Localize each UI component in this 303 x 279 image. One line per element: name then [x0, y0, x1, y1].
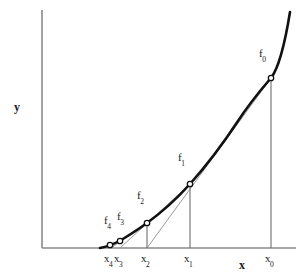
- tick-label-x0: x0: [265, 253, 274, 267]
- point-marker-f2: [144, 220, 149, 225]
- tick-label-x1-sub: 1: [189, 260, 193, 269]
- y-axis-label: y: [14, 101, 20, 113]
- tick-label-x3: x3: [114, 253, 123, 267]
- tick-label-x4-sub: 4: [109, 260, 113, 269]
- tick-label-x2: x2: [141, 253, 150, 267]
- point-label-f0: f0: [259, 48, 266, 62]
- point-label-f1-sub: 1: [181, 159, 185, 168]
- tick-label-x3-sub: 3: [119, 260, 123, 269]
- point-label-f2-sub: 2: [140, 197, 144, 206]
- point-label-f1: f1: [178, 152, 185, 166]
- tick-label-x4: x4: [104, 253, 113, 267]
- x-axis-label: x: [239, 259, 245, 271]
- point-marker-f3: [117, 238, 122, 243]
- point-marker-f4: [107, 242, 112, 247]
- point-label-f4: f4: [104, 215, 111, 229]
- tick-label-x0-sub: 0: [270, 260, 274, 269]
- tick-label-x1: x1: [184, 253, 193, 267]
- point-marker-f1: [187, 181, 192, 186]
- secant-method-figure: y x f0 f1 f2 f3 f4 x4 x3 x2 x1 x0: [0, 0, 303, 279]
- point-marker-f0: [268, 75, 273, 80]
- plot-canvas: [0, 0, 303, 279]
- secant-lines-group: [105, 78, 271, 248]
- tick-label-x2-sub: 2: [146, 260, 150, 269]
- point-label-f0-sub: 0: [262, 55, 266, 64]
- point-label-f3-sub: 3: [120, 218, 124, 227]
- point-label-f2: f2: [137, 190, 144, 204]
- point-label-f3: f3: [117, 211, 124, 225]
- point-label-f4-sub: 4: [107, 222, 111, 231]
- axes-group: [42, 10, 296, 248]
